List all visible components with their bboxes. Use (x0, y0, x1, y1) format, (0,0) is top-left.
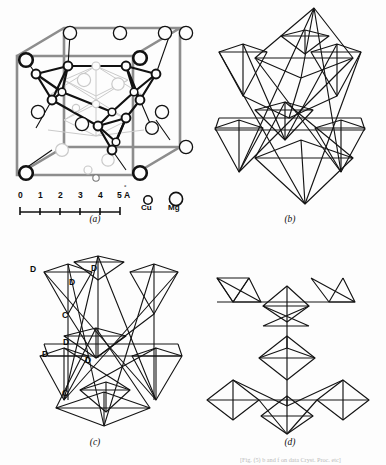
scale-tick-1: 1 (38, 190, 43, 200)
panel-c-label-d2: D (91, 263, 97, 273)
panel-c-label-c1: C (62, 310, 68, 320)
panel-c-label-d5: D (42, 349, 48, 359)
panel-a-caption: (a) (80, 214, 110, 224)
panel-a-diagram (0, 0, 193, 200)
scale-tick-2: 2 (58, 190, 63, 200)
legend-label-cu: Cu (141, 203, 152, 212)
angstrom-letter: A (124, 190, 130, 200)
panel-c-label-c2: C (62, 388, 68, 398)
scale-tick-5: 5 (117, 190, 122, 200)
panel-a-unit-cell (0, 0, 193, 200)
panel-c-label-d4: D (63, 337, 69, 347)
panel-d-polyhedra (193, 250, 386, 435)
scale-tick-4: 4 (98, 190, 103, 200)
scale-bar (18, 204, 138, 220)
panel-b-framework (193, 0, 386, 212)
panel-c-caption: (c) (80, 437, 110, 447)
panel-c-label-d6: D (85, 355, 91, 365)
panel-b-diagram (193, 0, 386, 212)
panel-c-label-d3: D (69, 277, 75, 287)
figure-root: 0 1 2 3 4 5 ° A Cu Mg (a) (0, 0, 386, 465)
figure-footnote: [Fig. (5) b and f on data Cryst. Proc. e… (240, 456, 386, 463)
panel-c-label-d1: D (30, 264, 36, 274)
scale-tick-0: 0 (18, 190, 23, 200)
panel-d-diagram (193, 250, 386, 435)
panel-b-caption: (b) (275, 214, 305, 224)
legend-label-mg: Mg (168, 203, 180, 212)
scale-tick-3: 3 (78, 190, 83, 200)
panel-d-caption: (d) (275, 437, 305, 447)
